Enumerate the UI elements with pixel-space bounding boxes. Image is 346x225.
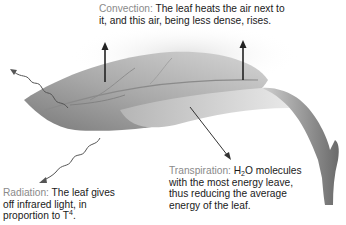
radiation-term: Radiation: [3,187,49,198]
transpiration-text-line3: thus reducing the average [169,188,287,199]
radiation-text-line1: The leaf gives [52,187,115,198]
arrow-head-icon [39,177,47,183]
water-formula: H2O molecules [234,165,302,176]
transpiration-text-line4: energy of the leaf. [169,200,251,211]
radiation-period: . [73,210,76,221]
convection-text-line2: it, and this air, being less dense, rise… [99,15,271,26]
convection-term: Convection: [99,3,153,14]
convection-text-line1: The leaf heats the air next to [155,3,284,14]
water-h: H [234,165,241,176]
radiation-label: Radiation: The leaf gives off infrared l… [3,187,143,222]
transpiration-text-line2: with the most energy leave, [169,177,293,188]
transpiration-term: Transpiration: [169,165,231,176]
transpiration-text-line1: O molecules [245,165,302,176]
radiation-text-line2: off infrared light, in [3,199,87,210]
transpiration-label: Transpiration: H2O molecules with the mo… [169,165,329,211]
convection-label: Convection: The leaf heats the air next … [99,3,339,26]
arrow-head-icon [224,152,231,160]
radiation-text-line3: proportion to T [3,210,69,221]
arrow-head-icon [10,69,17,75]
radiation-wave-arrow [44,138,100,180]
